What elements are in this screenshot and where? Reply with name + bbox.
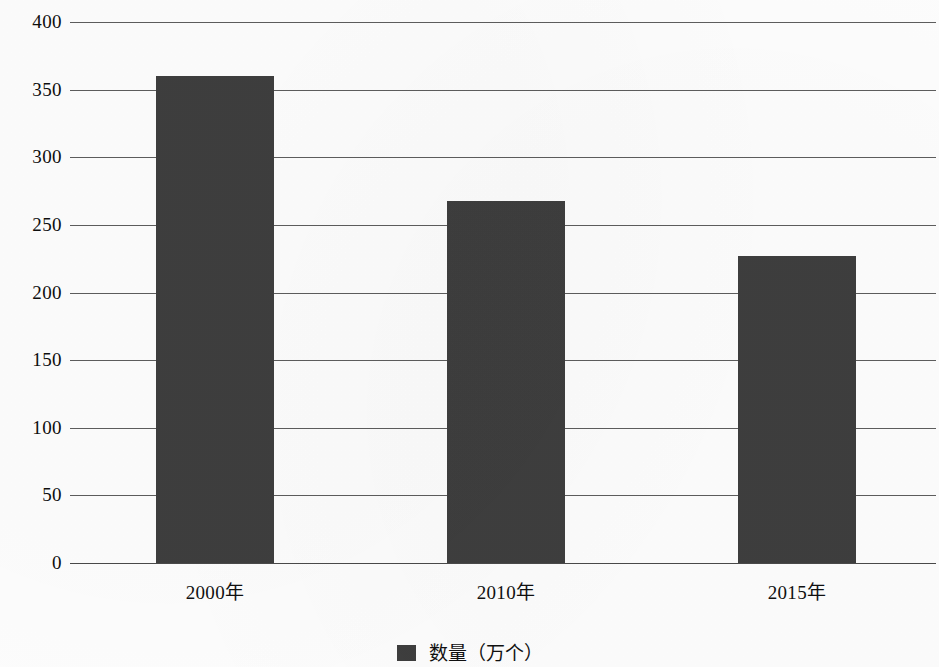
legend-item: 数量（万个） [397,644,543,663]
y-tick-label: 50 [4,485,62,504]
bar [738,256,856,563]
y-tick-label: 150 [4,350,62,369]
gridline [70,22,936,23]
y-tick-label: 250 [4,215,62,234]
y-tick-label: 0 [4,553,62,572]
x-tick-label: 2015年 [768,581,827,605]
y-tick-label: 300 [4,147,62,166]
y-tick-label: 100 [4,418,62,437]
bar-chart-figure: 050100150200250300350400 2000年2010年2015年… [0,0,939,667]
y-tick-label: 400 [4,12,62,31]
bar [447,201,565,563]
y-tick-label: 200 [4,283,62,302]
chart-legend: 数量（万个） [0,639,939,667]
y-tick-label: 350 [4,80,62,99]
x-axis-tick-labels: 2000年2010年2015年 [0,581,939,613]
x-tick-label: 2000年 [186,581,245,605]
x-tick-label: 2010年 [477,581,536,605]
axis-baseline [70,563,936,564]
plot-area [70,22,936,563]
legend-label: 数量（万个） [429,644,543,663]
legend-swatch-icon [397,645,416,661]
y-axis-tick-labels: 050100150200250300350400 [0,0,62,667]
bar [156,76,274,563]
